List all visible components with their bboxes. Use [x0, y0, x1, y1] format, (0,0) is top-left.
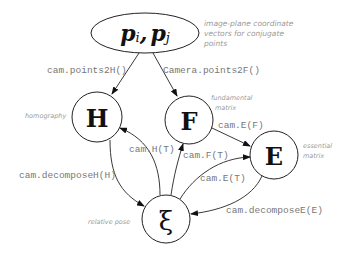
annot-fundamental-line2: matrix [215, 104, 236, 112]
annot-essential-line2: matrix [303, 152, 324, 160]
annot-relative-pose: relative pose [88, 218, 130, 226]
edge-xi-to-H [120, 128, 160, 195]
node-H: H [72, 92, 122, 142]
node-F: F [165, 96, 213, 144]
label-H-of-T: cam.H(T) [129, 144, 175, 155]
node-xi-label: ξ [159, 206, 173, 236]
annot-homography: homography [25, 112, 66, 120]
node-E: E [250, 131, 298, 179]
label-E-of-F: cam.E(F) [218, 120, 264, 131]
camera-geometry-diagram: pi,pj H F E ξ cam.points2H() Camera.poin… [0, 0, 346, 254]
node-F-label: F [180, 107, 197, 136]
label-decomposeH: cam.decomposeH(H) [19, 170, 116, 181]
points-label-a: p [120, 20, 136, 46]
annot-essential-line1: essential [303, 142, 332, 150]
annot-points-line3: points [203, 39, 227, 48]
points-sep: , [139, 20, 148, 46]
label-points2F: Camera.points2F() [163, 65, 260, 76]
label-points2H: cam.points2H() [47, 65, 127, 76]
svg-text:pi,pj: pi,pj [120, 20, 170, 46]
annot-points-line2: vectors for conjugate [204, 29, 284, 38]
annot-fundamental-line1: fundamental [211, 94, 253, 102]
node-E-label: E [265, 142, 283, 171]
label-F-of-T: cam.F(T) [183, 150, 229, 161]
node-points: pi,pj [91, 13, 199, 53]
node-H-label: H [86, 104, 109, 133]
label-decomposeE: cam.decomposeE(E) [226, 205, 323, 216]
points-label-b: p [150, 20, 166, 46]
label-E-of-T: cam.E(T) [200, 173, 246, 184]
node-xi: ξ [142, 195, 190, 243]
annot-points-line1: image-plane coordinate [204, 19, 294, 28]
